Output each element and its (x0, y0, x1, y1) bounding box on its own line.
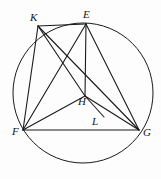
segment-k-g (38, 26, 139, 130)
point-label-k: K (30, 12, 37, 23)
segment-layer (23, 24, 139, 130)
segment-f-h (23, 96, 85, 130)
point-label-g: G (143, 127, 151, 138)
point-label-f: F (12, 126, 19, 137)
point-label-h: H (78, 96, 86, 107)
segment-e-f (23, 24, 86, 130)
segment-k-f (23, 26, 38, 130)
geometry-figure: KEFGHL (0, 0, 161, 179)
segment-k-e (38, 24, 86, 26)
point-label-l: L (92, 116, 98, 127)
geometry-canvas (0, 0, 161, 179)
point-label-e: E (83, 9, 90, 20)
segment-e-h (85, 24, 86, 96)
